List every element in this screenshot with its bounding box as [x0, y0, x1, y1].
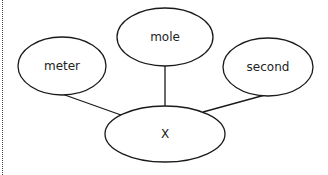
node-mole: mole: [117, 8, 213, 66]
node-second: second: [223, 38, 313, 96]
node-second-label: second: [247, 60, 290, 74]
node-meter-label: meter: [44, 59, 80, 73]
edge-meter-x: [62, 94, 121, 115]
node-mole-label: mole: [150, 30, 180, 44]
node-meter: meter: [18, 37, 106, 95]
node-x: X: [105, 106, 225, 162]
edge-second-x: [203, 95, 265, 112]
node-x-label: X: [161, 127, 169, 141]
concept-diagram: meter mole second X: [0, 0, 328, 175]
